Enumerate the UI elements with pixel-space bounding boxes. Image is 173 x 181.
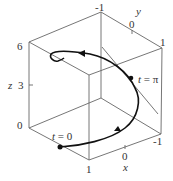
z-tick-label-3: 3 <box>18 79 24 91</box>
arrow-icon-upper <box>78 50 85 57</box>
y-tick-label-1: 1 <box>160 36 166 48</box>
z-tick-label-6: 6 <box>17 40 23 52</box>
x-tick-label-1: 1 <box>86 163 92 175</box>
z-tick-label-0: 0 <box>17 119 23 131</box>
x-tick-label-neg1: -1 <box>153 135 162 147</box>
box-edge-top-right-front <box>89 48 162 75</box>
box-edge-vertical-right <box>161 48 162 134</box>
arrow-icon-lower <box>114 126 121 131</box>
label-t-pi: t = π <box>138 73 159 85</box>
bounding-box <box>29 12 162 160</box>
point-t-0 <box>58 145 63 150</box>
box-edge-bottom-back-right <box>101 98 161 134</box>
y-tick-label-0: 0 <box>129 18 135 30</box>
box-edge-bottom-left-back <box>29 98 101 128</box>
point-t-pi <box>129 76 134 81</box>
x-axis-label: x <box>122 161 128 173</box>
z-axis-label: z <box>7 79 13 91</box>
helix-figure: 6 3 z 0 -1 y 0 1 1 0 x -1 t = 0 t = π <box>0 0 173 181</box>
y-axis-label: y <box>135 5 141 17</box>
y-tick-label-neg1: -1 <box>95 1 104 13</box>
label-t-0: t = 0 <box>52 130 73 142</box>
box-edge-top-front-left <box>29 42 89 75</box>
box-edge-top-left-back <box>29 12 101 42</box>
